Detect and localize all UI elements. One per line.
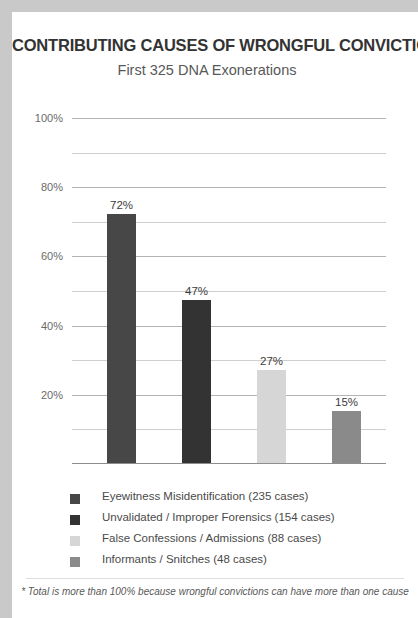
legend-label: False Confessions / Admissions (88 cases… [102,532,321,544]
gridline-major [72,187,386,188]
chart-footnote: * Total is more than 100% because wrongf… [12,586,418,597]
legend-label: Unvalidated / Improper Forensics (154 ca… [102,511,335,523]
y-axis-tick-label: 40% [41,320,63,332]
legend-swatch [70,515,80,525]
bar: 15% [332,411,361,463]
legend-label: Eyewitness Misidentification (235 cases) [102,490,308,502]
gridline-minor [72,153,386,154]
footnote-divider [26,578,404,579]
plot-area: 100%80%60%40%20% 72%47%27%15% [72,118,386,464]
chart-card: CONTRIBUTING CAUSES OF WRONGFUL CONVICTI… [12,12,418,618]
y-axis-tick-label: 20% [41,389,63,401]
y-axis-tick-label: 60% [41,250,63,262]
chart-title: CONTRIBUTING CAUSES OF WRONGFUL CONVICTI… [12,36,402,55]
x-axis-baseline [72,463,386,464]
chart-subtitle: First 325 DNA Exonerations [12,62,402,78]
legend-label: Informants / Snitches (48 cases) [102,553,267,565]
bar: 47% [182,300,211,463]
legend-swatch [70,536,80,546]
bar-value-label: 27% [260,355,283,367]
bar-value-label: 72% [110,199,133,211]
y-axis-tick-label: 80% [41,181,63,193]
bar-value-label: 47% [185,285,208,297]
bar-value-label: 15% [335,396,358,408]
y-axis-tick-label: 100% [35,112,63,124]
gridline-major [72,118,386,119]
bar: 72% [107,214,136,463]
bar: 27% [257,370,286,463]
legend-swatch [70,557,80,567]
legend-swatch [70,494,80,504]
